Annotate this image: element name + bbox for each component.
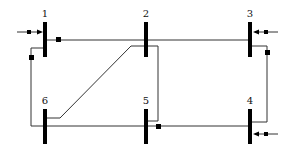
bus-label: 6 [42,95,48,106]
bus-bar [144,109,148,144]
bus-bar [43,109,47,144]
bus-bar [248,109,252,144]
breaker-5-right [156,124,161,129]
injection-breaker [264,132,268,136]
bus-bar [248,22,252,57]
bus-4: 4 [247,95,253,144]
bus-label: 2 [143,8,149,19]
breakers [29,37,270,129]
lines [31,40,267,126]
injection-bus4 [253,132,278,137]
injection-breaker [264,30,268,34]
bus-label: 1 [42,8,48,19]
bus-bar [43,22,47,57]
bus-bar [144,22,148,57]
bus-5: 5 [143,95,149,144]
line-2-6 [47,46,145,118]
arrow-right-icon [37,30,43,35]
bus-label: 3 [247,8,253,19]
bus-label: 4 [247,95,253,106]
six-bus-diagram: 1 2 3 4 5 6 [0,0,296,154]
injection-bus1 [17,30,43,35]
bus-2: 2 [143,8,149,57]
injection-breaker [27,30,31,34]
bus-6: 6 [42,95,48,144]
arrow-left-icon [253,132,259,137]
breaker-1-left [29,55,34,60]
breaker-1-top [56,37,61,42]
line-3-4 [252,46,267,122]
bus-1: 1 [42,8,48,57]
bus-3: 3 [247,8,253,57]
breaker-3-right [265,50,270,55]
line-2-5 [148,46,158,121]
arrow-left-icon [253,30,259,35]
bus-label: 5 [143,95,149,106]
injection-bus3 [253,30,278,35]
